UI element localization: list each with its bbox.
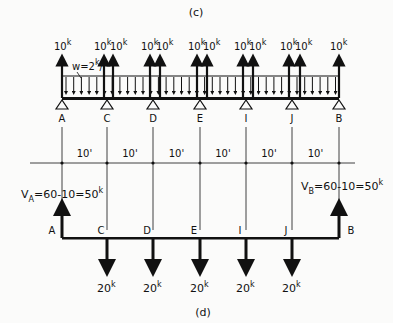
span-length-label: 10' (169, 148, 184, 159)
point-load-label: 10k (110, 38, 128, 52)
span-length-label: 10' (215, 148, 230, 159)
support-triangle-icon (240, 100, 252, 109)
down-load-label: 20k (143, 280, 162, 295)
node-label: C (98, 225, 105, 236)
reaction-va-label: VA=60-10=50k (21, 186, 103, 204)
support-label: I (245, 113, 248, 124)
span-length-label: 10' (308, 148, 323, 159)
point-load-label: 10k (54, 38, 72, 52)
support-label: D (149, 113, 157, 124)
support-triangle-icon (194, 100, 206, 109)
support-label: E (197, 113, 203, 124)
beam-diagram: (c) w=2k/' 10k10k10k10k10k10k10k10k10k10… (0, 0, 393, 323)
span-length-label: 10' (261, 148, 276, 159)
node-label: J (284, 225, 288, 236)
support-label: C (104, 113, 111, 124)
node-label: B (348, 225, 355, 236)
span-length-label: 10' (122, 148, 137, 159)
panel-d-label: (d) (195, 306, 211, 319)
down-load-label: 20k (190, 280, 209, 295)
support-triangle-icon (147, 100, 159, 109)
load-intensity-label: w=2k/' (72, 58, 106, 78)
down-load-label: 20k (282, 280, 301, 295)
panel-d: AC20kD20kE20kI20kJ20kB (49, 207, 355, 295)
support-triangle-icon (101, 100, 113, 109)
reaction-vb-label: VB=60-10=50k (301, 178, 383, 196)
support-label: B (336, 113, 343, 124)
support-triangle-icon (333, 100, 345, 109)
node-label: E (191, 225, 197, 236)
support-triangle-icon (56, 100, 68, 109)
down-load-label: 20k (97, 280, 116, 295)
dimension-line: 10'10'10'10'10'10' (30, 127, 355, 230)
support-label: J (290, 113, 294, 124)
point-load-label: 10k (249, 38, 267, 52)
panel-c-label: (c) (189, 6, 204, 19)
svg-text:w=2k/': w=2k/' (72, 58, 106, 72)
point-loads-up: 10k10k10k10k10k10k10k10k10k10k10k10k (54, 38, 348, 98)
supports: ACDEIJB (56, 100, 345, 124)
support-label: A (59, 113, 66, 124)
node-label: I (239, 225, 242, 236)
node-label: D (143, 225, 151, 236)
point-load-label: 10k (295, 38, 313, 52)
node-label: A (49, 225, 56, 236)
point-load-label: 10k (330, 38, 348, 52)
point-load-label: 10k (203, 38, 221, 52)
span-length-label: 10' (77, 148, 92, 159)
point-load-label: 10k (156, 38, 174, 52)
support-triangle-icon (286, 100, 298, 109)
down-load-label: 20k (236, 280, 255, 295)
